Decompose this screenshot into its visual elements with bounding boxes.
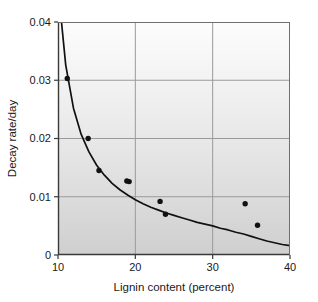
x-tick-label-10: 10 — [52, 261, 64, 273]
x-axis-title: Lignin content (percent) — [114, 281, 235, 293]
data-point — [65, 76, 70, 81]
data-point — [255, 223, 260, 228]
x-tick-label-30: 30 — [207, 261, 219, 273]
data-point — [163, 212, 168, 217]
data-point — [126, 179, 131, 184]
x-tick-label-20: 20 — [129, 261, 141, 273]
data-point — [85, 136, 90, 141]
x-tick-label-40: 40 — [284, 261, 296, 273]
y-tick-label-0.01: 0.01 — [30, 191, 51, 203]
decay-rate-vs-lignin-scatter-plot: 00.010.020.030.04 10203040 Lignin conten… — [0, 0, 318, 302]
y-tick-label-0.02: 0.02 — [30, 132, 51, 144]
data-point — [157, 199, 162, 204]
y-axis-title: Decay rate/day — [6, 100, 18, 178]
y-tick-label-0: 0 — [45, 249, 51, 261]
data-point — [242, 201, 247, 206]
data-point — [96, 168, 101, 173]
y-tick-label-0.04: 0.04 — [30, 16, 51, 28]
y-tick-label-0.03: 0.03 — [30, 74, 51, 86]
chart-figure: 00.010.020.030.04 10203040 Lignin conten… — [0, 0, 318, 302]
